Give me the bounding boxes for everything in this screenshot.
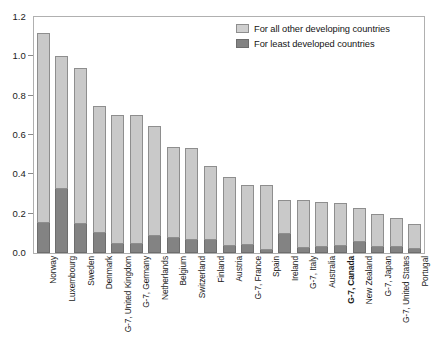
bar-group (278, 17, 291, 253)
y-axis-tick-label: 1.2 (12, 11, 26, 22)
x-axis-tick-label: Denmark (103, 256, 116, 289)
bar-segment-other-developing (74, 68, 87, 223)
bar-group (353, 17, 366, 253)
bar-segment-least-developed (55, 188, 68, 253)
bar-chart: 0.00.20.40.60.81.01.2 For all other deve… (0, 0, 431, 338)
legend-swatch-icon (236, 39, 249, 48)
x-axis-tick-label: Switzerland (196, 256, 209, 298)
x-axis-tick-label: Ireland (289, 256, 302, 281)
bar-segment-other-developing (390, 218, 403, 248)
y-axis-tick-label: 0.2 (12, 207, 26, 218)
legend-label: For all other developing countries (254, 24, 390, 34)
y-axis-tick-label: 0.4 (12, 168, 26, 179)
bar-segment-other-developing (241, 185, 254, 245)
y-axis-tick-label: 1.0 (12, 50, 26, 61)
bar-segment-least-developed (353, 241, 366, 253)
bar-group (241, 17, 254, 253)
bar-segment-least-developed (278, 233, 291, 253)
x-axis-tick-label: Sweden (85, 256, 98, 286)
x-axis-tick-label: New Zealand (363, 256, 376, 304)
bar-group (148, 17, 161, 253)
x-axis-tick-label: G-7, Italy (307, 256, 320, 289)
x-axis-tick-label: Norway (47, 256, 60, 284)
legend-item: For all other developing countries (236, 22, 426, 35)
x-axis-tick-label: Belgium (177, 256, 190, 286)
bar-segment-least-developed (185, 239, 198, 253)
x-axis-tick-label: G-7, United States (400, 256, 413, 323)
bar-group (37, 17, 50, 253)
bar-segment-least-developed (241, 244, 254, 253)
bar-segment-other-developing (260, 185, 273, 250)
bar-segment-least-developed (371, 246, 384, 253)
bar-segment-least-developed (37, 222, 50, 253)
chart-legend: For all other developing countriesFor le… (236, 22, 426, 52)
x-axis-tick-label: Finland (215, 256, 228, 283)
bar-group (371, 17, 384, 253)
legend-swatch-icon (236, 24, 249, 33)
bar-group (334, 17, 347, 253)
bar-segment-least-developed (204, 239, 217, 253)
bar-segment-least-developed (74, 223, 87, 253)
legend-label: For least developed countries (254, 39, 375, 49)
bar-group (204, 17, 217, 253)
bar-segment-other-developing (278, 200, 291, 234)
bar-segment-other-developing (185, 148, 198, 240)
bar-group (55, 17, 68, 253)
bar-group (297, 17, 310, 253)
x-axis-tick-label: Austria (233, 256, 246, 281)
bar-segment-other-developing (111, 115, 124, 244)
x-axis-tick-label: Australia (326, 256, 339, 288)
bar-segment-other-developing (334, 203, 347, 246)
bar-segment-least-developed (93, 232, 106, 253)
bar-segment-other-developing (55, 56, 68, 189)
bar-segment-other-developing (130, 115, 143, 244)
bar-group (315, 17, 328, 253)
x-axis-tick-label: G-7, Japan (382, 256, 395, 296)
bar-group (111, 17, 124, 253)
bar-group (185, 17, 198, 253)
bar-group (390, 17, 403, 253)
legend-item: For least developed countries (236, 37, 426, 50)
x-axis-tick-label: G-7, United Kingdom (122, 256, 135, 332)
bar-segment-other-developing (408, 224, 421, 250)
y-axis-tick-label: 0.6 (12, 129, 26, 140)
y-axis-tick-label: 0.0 (12, 247, 26, 258)
bar-segment-other-developing (93, 106, 106, 234)
y-axis-tick-label: 0.8 (12, 89, 26, 100)
bar-segment-other-developing (315, 202, 328, 247)
bar-segment-other-developing (37, 33, 50, 223)
bar-segment-least-developed (315, 246, 328, 253)
bar-group (130, 17, 143, 253)
bar-segment-least-developed (111, 243, 124, 253)
bars-layer (34, 17, 424, 253)
bar-group (408, 17, 421, 253)
bar-segment-least-developed (334, 245, 347, 253)
x-axis-tick-label: G-7, France (252, 256, 265, 300)
x-axis-tick-label: Netherlands (159, 256, 172, 300)
bar-segment-other-developing (148, 126, 161, 236)
bar-segment-least-developed (130, 243, 143, 253)
x-axis-tick-label: Luxembourg (66, 256, 79, 302)
x-axis-tick-label: Spain (270, 256, 283, 277)
bar-segment-other-developing (223, 177, 236, 246)
bar-segment-other-developing (297, 200, 310, 248)
bar-segment-least-developed (167, 237, 180, 253)
bar-segment-least-developed (223, 245, 236, 253)
bar-group (74, 17, 87, 253)
bar-segment-least-developed (390, 246, 403, 253)
bar-segment-other-developing (353, 208, 366, 242)
bar-segment-other-developing (371, 214, 384, 247)
bar-group (223, 17, 236, 253)
bar-group (93, 17, 106, 253)
x-axis-tick-label: G-7, Germany (140, 256, 153, 308)
bar-segment-other-developing (167, 147, 180, 238)
x-axis: NorwayLuxembourgSwedenDenmarkG-7, United… (34, 256, 424, 338)
bar-group (260, 17, 273, 253)
bar-group (167, 17, 180, 253)
bar-segment-least-developed (148, 235, 161, 253)
x-axis-tick-label: G-7, Canada (345, 256, 358, 304)
bar-segment-other-developing (204, 166, 217, 240)
x-axis-tick-label: Portugal (419, 256, 431, 286)
